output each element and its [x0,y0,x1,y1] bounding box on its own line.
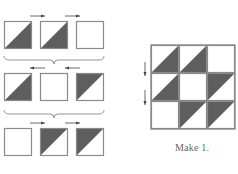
row-2-unit-2 [40,73,68,101]
finished-block [130,40,238,140]
block-cell-3-2 [179,101,207,129]
row-1-unit-1 [4,21,32,49]
make-count-caption: Make 1. [175,142,209,153]
press-arrow-right-icon [65,122,80,125]
block-cell-1-2 [179,45,207,73]
block-cell-1-3 [207,45,235,73]
press-arrow-right-icon [30,15,45,18]
row-2-unit-1 [4,73,32,101]
block-cell-2-3 [207,73,235,101]
press-arrow-down-icon [144,90,147,105]
row-2-unit-3 [76,73,104,101]
row-3-unit-1 [4,128,32,156]
block-cell-2-1 [151,73,179,101]
assembly-rows-svg [0,0,120,174]
press-arrow-left-icon [30,67,45,70]
press-arrow-down-icon [144,62,147,76]
row-3-unit-3 [76,128,104,156]
block-cell-1-1 [151,45,179,73]
row-1-unit-2 [40,21,68,49]
block-cell-3-1 [151,101,179,129]
join-brace [4,56,104,64]
press-arrow-right-icon [30,122,45,125]
block-cell-2-2 [179,73,207,101]
row-1-unit-3 [76,21,104,49]
assembly-diagram [0,0,120,174]
press-arrow-right-icon [65,15,80,18]
block-cell-3-3 [207,101,235,129]
finished-block-svg [130,40,238,140]
press-arrow-left-icon [65,67,80,70]
row-3-unit-2 [40,128,68,156]
join-brace [4,110,104,118]
